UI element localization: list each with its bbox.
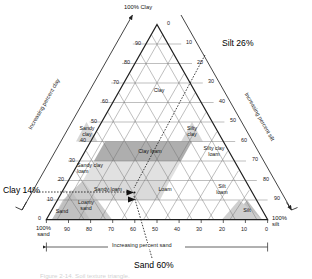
silt-tick-40: 40: [219, 99, 225, 105]
class-label-silty-clay-loam: Silty clay loam: [196, 146, 232, 157]
silt-tick-0: 0: [167, 21, 170, 27]
silt-tick-20: 20: [197, 60, 203, 66]
callout-clay: Clay 14%: [3, 186, 40, 195]
silt-tick-50: 50: [230, 118, 236, 124]
sand-tick-30: 30: [196, 227, 202, 233]
sand-tick-40: 40: [174, 227, 180, 233]
class-label-sand: Sand: [51, 209, 73, 215]
clay-tick-10: 10: [47, 197, 53, 203]
class-label-clay: Clay: [147, 88, 171, 94]
silt-tick-70: 70: [252, 157, 258, 163]
clay-tick-90: 90: [135, 41, 141, 47]
sand-tick-20: 20: [219, 227, 225, 233]
callout-silt: Silt 26%: [222, 39, 254, 48]
class-label-sandy-clay: Sandy clay: [73, 126, 101, 137]
clay-tick-30: 30: [69, 158, 75, 164]
class-label-sandy-clay-loam: Sandy clay loam: [77, 163, 119, 174]
callout-sand: Sand 60%: [134, 261, 174, 270]
left-corner-label: 100% sand: [36, 225, 51, 237]
class-label-clay-loam: Clay loam: [129, 149, 171, 155]
sand-tick-10: 10: [241, 227, 247, 233]
figure-caption: Figure 2-14. Soil texture triangle.: [40, 273, 130, 279]
apex-label: 100% Clay: [124, 4, 152, 10]
clay-tick-0: 0: [38, 216, 41, 222]
sand-tick-70: 70: [108, 227, 114, 233]
sand-tick-60: 60: [130, 227, 136, 233]
class-label-silt: Silt: [238, 208, 256, 214]
clay-tick-50: 50: [91, 119, 97, 125]
clay-tick-40: 40: [80, 138, 86, 144]
right-corner-label: 100% silt: [272, 215, 287, 227]
clay-tick-70: 70: [113, 80, 119, 86]
silt-tick-60: 60: [241, 138, 247, 144]
sand-tick-0: 0: [265, 227, 268, 233]
class-label-loamy-sand: Loamy sand: [72, 200, 100, 211]
clay-tick-80: 80: [124, 60, 130, 66]
sand-tick-80: 80: [86, 227, 92, 233]
soil-texture-triangle-figure: 100% Clay 100% sand 100% silt Clay 14% S…: [0, 0, 312, 279]
silt-tick-80: 80: [263, 177, 269, 183]
silt-tick-30: 30: [208, 79, 214, 85]
class-label-silty-clay: Silty clay: [179, 126, 205, 137]
silt-tick-90: 90: [274, 196, 280, 202]
class-label-silt-loam: Silt loam: [211, 184, 233, 195]
sand-tick-50: 50: [152, 227, 158, 233]
silt-tick-10: 10: [186, 40, 192, 46]
bottom-axis-name: Increasing percent sand: [110, 243, 174, 249]
class-label-loam: Loam: [152, 187, 178, 193]
class-label-sandy-loam: Sandy loam: [86, 187, 130, 193]
sand-tick-90: 90: [64, 227, 70, 233]
clay-tick-20: 20: [58, 177, 64, 183]
clay-tick-60: 60: [102, 99, 108, 105]
